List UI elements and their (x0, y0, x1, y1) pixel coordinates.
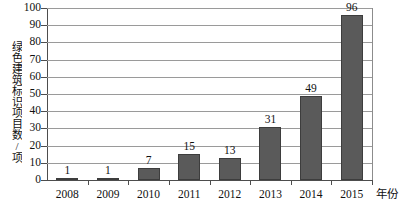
x-tick-mark (88, 180, 89, 185)
y-tick-label: 40 (15, 105, 41, 117)
y-tick-label: 30 (15, 122, 41, 134)
x-tick-label: 2009 (86, 188, 130, 200)
y-tick-mark (41, 60, 47, 61)
bar (178, 154, 200, 180)
bar-value-label: 96 (332, 2, 372, 14)
x-tick-label: 2010 (127, 188, 171, 200)
gridline (47, 60, 372, 61)
bar (56, 178, 78, 180)
bar-value-label: 7 (129, 155, 169, 167)
y-tick-mark (41, 42, 47, 43)
y-tick-label: 0 (15, 174, 41, 186)
gridline (47, 77, 372, 78)
gridline (47, 128, 372, 129)
gridline (47, 25, 372, 26)
gridline (47, 8, 372, 9)
y-tick-mark (41, 146, 47, 147)
bar-value-label: 15 (169, 141, 209, 153)
y-tick-label: 10 (15, 157, 41, 169)
y-tick-mark (41, 8, 47, 9)
x-tick-mark (210, 180, 211, 185)
x-tick-mark (331, 180, 332, 185)
x-axis-title: 年份 (376, 188, 398, 200)
y-tick-label: 50 (15, 88, 41, 100)
bar-value-label: 31 (250, 114, 290, 126)
bar (259, 127, 281, 180)
y-tick-label: 60 (15, 71, 41, 83)
bar (300, 96, 322, 180)
x-tick-mark (128, 180, 129, 185)
y-tick-label: 80 (15, 36, 41, 48)
y-tick-mark (41, 111, 47, 112)
x-tick-mark (291, 180, 292, 185)
bar (219, 158, 241, 180)
bar-value-label: 13 (210, 145, 250, 157)
y-tick-mark (41, 163, 47, 164)
x-tick-label: 2015 (330, 188, 374, 200)
x-tick-label: 2011 (167, 188, 211, 200)
y-tick-mark (41, 94, 47, 95)
bar (341, 15, 363, 180)
y-tick-label: 100 (15, 2, 41, 14)
y-tick-label: 20 (15, 140, 41, 152)
x-tick-label: 2013 (248, 188, 292, 200)
x-tick-label: 2008 (45, 188, 89, 200)
y-tick-mark (41, 128, 47, 129)
bar (97, 178, 119, 180)
bar-chart: 绿色建筑标识项目数/项 0102030405060708090100 11715… (0, 0, 405, 211)
bar-value-label: 1 (47, 165, 87, 177)
y-tick-label: 90 (15, 19, 41, 31)
bar-value-label: 49 (291, 83, 331, 95)
y-tick-mark (41, 180, 47, 181)
y-tick-mark (41, 25, 47, 26)
x-tick-label: 2014 (289, 188, 333, 200)
y-tick-label: 70 (15, 54, 41, 66)
x-tick-label: 2012 (208, 188, 252, 200)
x-tick-mark (372, 180, 373, 185)
gridline (47, 42, 372, 43)
gridline (47, 163, 372, 164)
y-tick-mark (41, 77, 47, 78)
x-tick-mark (169, 180, 170, 185)
bar (138, 168, 160, 180)
bar-value-label: 1 (88, 165, 128, 177)
gridline (47, 111, 372, 112)
x-tick-mark (250, 180, 251, 185)
